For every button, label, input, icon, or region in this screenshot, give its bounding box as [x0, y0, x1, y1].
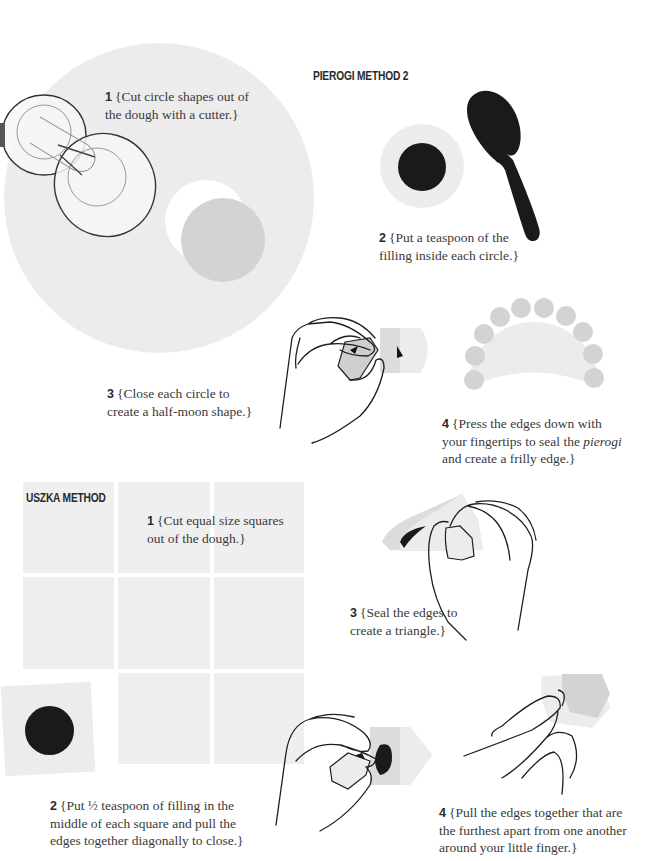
pierogi-step-4-caption: 4{Press the edges down with your fingert…	[442, 415, 622, 467]
fingers-wrapping-uszka-icon	[462, 668, 658, 798]
pierogi-step-2-caption: 2{Put a teaspoon of the filling inside e…	[379, 229, 519, 264]
dough-square	[214, 577, 304, 669]
filling-ball	[25, 706, 74, 755]
filling-ball	[398, 143, 446, 191]
dough-disk	[181, 198, 265, 282]
uszka-step-2-caption: 2{Put ½ teaspoon of filling in the middl…	[50, 797, 244, 849]
uszka-step-4-caption: 4{Pull the edges together that are the f…	[439, 804, 627, 856]
frilly-half-moon-icon	[464, 302, 604, 412]
pierogi-method-2-heading: PIEROGI METHOD 2	[313, 69, 408, 83]
pierogi-step-1-caption: 1{Cut circle shapes out of the dough wit…	[105, 88, 249, 123]
dough-square	[23, 577, 114, 669]
dough-square	[118, 577, 210, 669]
uszka-step-1-caption: 1{Cut equal size squares out of the doug…	[147, 512, 284, 547]
uszka-step-3-caption: 3{Seal the edges to create a triangle.}	[350, 604, 458, 639]
teaspoon-icon	[465, 88, 565, 248]
pierogi-step-3-caption: 3{Close each circle to create a half-moo…	[107, 385, 252, 420]
hand-folding-circle-icon	[250, 298, 440, 468]
hand-closing-diagonally-icon	[270, 705, 440, 845]
dough-square	[118, 673, 210, 764]
uszka-method-heading: USZKA METHOD	[26, 491, 106, 505]
